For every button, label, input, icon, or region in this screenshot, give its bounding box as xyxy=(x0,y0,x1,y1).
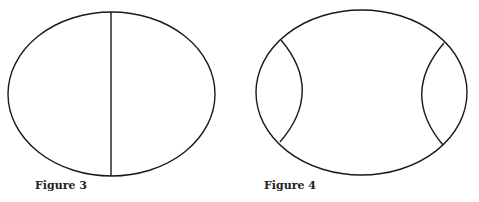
figure-4-ellipse xyxy=(256,10,467,175)
figure-3-drawing xyxy=(8,12,215,176)
figure-4-right-arc xyxy=(422,43,444,145)
figure-4-drawing xyxy=(256,10,467,175)
figure-4-caption: Figure 4 xyxy=(264,179,316,192)
figure-3-caption: Figure 3 xyxy=(35,179,87,192)
figures-drawing xyxy=(0,0,479,202)
figure-4-left-arc xyxy=(280,40,302,142)
